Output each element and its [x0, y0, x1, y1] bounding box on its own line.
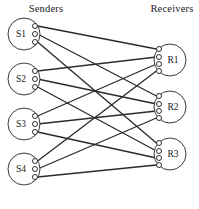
edge-S4-p1-to-R1-p4 [38, 71, 157, 161]
edge-S3-p3-to-R3-p3 [38, 132, 157, 158]
port-S4-2[interactable] [33, 167, 38, 172]
node-S3[interactable]: S3 [8, 108, 40, 140]
edge-S2-p2-to-R2-p2 [38, 79, 157, 104]
node-label-S4: S4 [16, 164, 26, 174]
port-S2-2[interactable] [33, 77, 38, 82]
port-R3-3[interactable] [157, 156, 162, 161]
node-label-S1: S1 [16, 29, 26, 39]
port-R3-1[interactable] [157, 141, 162, 146]
node-R3[interactable]: R3 [154, 138, 186, 170]
node-S1[interactable]: S1 [8, 18, 40, 50]
edge-S1-p1-to-R1-p1 [38, 26, 157, 49]
node-R1[interactable]: R1 [154, 44, 186, 76]
port-R1-1[interactable] [157, 47, 162, 52]
port-S3-2[interactable] [33, 122, 38, 127]
port-R2-2[interactable] [157, 102, 162, 107]
edge-S1-p3-to-R3-p1 [38, 42, 157, 143]
port-R2-3[interactable] [157, 109, 162, 114]
node-label-S2: S2 [16, 74, 26, 84]
port-S3-3[interactable] [33, 130, 38, 135]
port-S2-1[interactable] [33, 69, 38, 74]
port-S1-1[interactable] [33, 24, 38, 29]
port-S3-1[interactable] [33, 114, 38, 119]
node-label-R2: R2 [167, 102, 178, 112]
port-R1-3[interactable] [157, 62, 162, 67]
edge-S4-p2-to-R2-p4 [38, 118, 157, 169]
edge-S2-p1-to-R1-p2 [38, 57, 157, 71]
port-R2-4[interactable] [157, 116, 162, 121]
node-S4[interactable]: S4 [8, 153, 40, 185]
port-R2-1[interactable] [157, 94, 162, 99]
port-S1-2[interactable] [33, 32, 38, 37]
receivers-column-title: Receivers [150, 3, 193, 14]
port-S4-3[interactable] [33, 175, 38, 180]
node-label-R1: R1 [167, 55, 178, 65]
node-label-R3: R3 [167, 149, 178, 159]
senders-column-title: Senders [29, 3, 64, 14]
port-S1-3[interactable] [33, 40, 38, 45]
port-R1-2[interactable] [157, 55, 162, 60]
nodes-layer: S1S2S3S4R1R2R3 [8, 18, 186, 185]
port-S4-1[interactable] [33, 159, 38, 164]
graph-canvas: Senders Receivers S1S2S3S4R1R2R3 [0, 0, 199, 209]
port-R1-4[interactable] [157, 69, 162, 74]
edge-S3-p1-to-R1-p3 [38, 64, 157, 116]
edge-S4-p3-to-R3-p4 [38, 165, 157, 177]
port-S2-3[interactable] [33, 85, 38, 90]
node-S2[interactable]: S2 [8, 63, 40, 95]
node-R2[interactable]: R2 [154, 91, 186, 123]
node-label-S3: S3 [16, 119, 26, 129]
edge-S1-p2-to-R2-p1 [38, 34, 157, 96]
edge-S2-p3-to-R3-p2 [38, 87, 157, 151]
port-R3-2[interactable] [157, 149, 162, 154]
edges-layer [38, 26, 157, 177]
port-R3-4[interactable] [157, 163, 162, 168]
bipartite-graph-figure: Senders Receivers S1S2S3S4R1R2R3 [0, 0, 199, 209]
edge-S3-p2-to-R2-p3 [38, 111, 157, 124]
